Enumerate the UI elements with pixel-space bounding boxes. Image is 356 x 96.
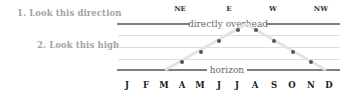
month-jul: J: [234, 80, 239, 90]
month-apr: A: [178, 80, 186, 90]
dot-aug: [254, 28, 258, 32]
month-labels: J F M A M J J A S O N D: [124, 80, 333, 90]
direction-labels: NE E W NW: [174, 4, 328, 13]
month-aug: A: [251, 80, 259, 90]
direction-ne: NE: [174, 4, 186, 13]
month-nov: N: [307, 80, 315, 90]
dot-oct: [291, 50, 295, 54]
month-jan: J: [124, 80, 129, 90]
month-sep: S: [271, 80, 277, 90]
dot-nov: [309, 60, 313, 64]
dot-sep: [272, 39, 276, 43]
dot-apr: [180, 60, 184, 64]
month-oct: O: [288, 80, 296, 90]
month-may: M: [195, 80, 205, 90]
altitude-dots: [180, 28, 313, 64]
month-feb: F: [143, 80, 149, 90]
grid-lines: [118, 36, 340, 60]
month-jun: J: [216, 80, 221, 90]
direction-e: E: [226, 4, 231, 13]
horizon-label: horizon: [210, 65, 245, 75]
dot-jul: [236, 28, 240, 32]
month-mar: M: [159, 80, 169, 90]
month-dec: D: [325, 80, 333, 90]
direction-w: W: [268, 4, 277, 13]
sky-position-diagram: NE E W NW directly overhead horizon J F: [0, 0, 356, 96]
overhead-label: directly overhead: [188, 19, 268, 29]
dot-jun: [217, 39, 221, 43]
dot-may: [199, 50, 203, 54]
direction-nw: NW: [314, 4, 328, 13]
